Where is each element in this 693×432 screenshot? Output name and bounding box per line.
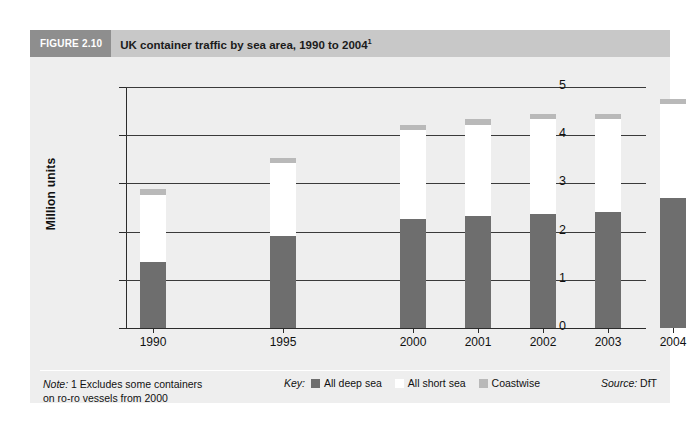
legend-item-coastwise: Coastwise [479, 377, 540, 389]
x-tick-label-2002: 2002 [513, 335, 573, 349]
plot-inner-area: 1990199520002001200220032004 [126, 87, 646, 328]
gridline-2 [126, 232, 646, 233]
bar-segment-deep-sea-1995 [270, 236, 296, 328]
legend-swatch-coastwise-icon [479, 379, 488, 388]
x-tick-mark-2001 [478, 328, 479, 333]
figure-footer: Note: 1 Excludes some containers on ro-r… [30, 374, 670, 403]
chart-legend: Key: All deep sea All short sea Coastwis… [284, 377, 553, 389]
y-tick-label-2: 2 [540, 223, 566, 237]
x-axis-line [126, 328, 646, 329]
bar-2000 [400, 125, 426, 328]
gridline-4 [126, 135, 646, 136]
x-tick-mark-1995 [283, 328, 284, 333]
source-label: Source: [601, 377, 637, 389]
bar-segment-short-sea-1990 [140, 195, 166, 262]
x-tick-mark-1990 [153, 328, 154, 333]
legend-label-deep-sea: All deep sea [324, 377, 382, 389]
gridline-1 [126, 280, 646, 281]
figure-title-footnote-marker: 1 [368, 37, 372, 46]
bar-segment-short-sea-2001 [465, 125, 491, 217]
x-tick-mark-2000 [413, 328, 414, 333]
figure-title-bar: FIGURE 2.10 UK container traffic by sea … [30, 30, 670, 57]
figure-title-text: UK container traffic by sea area, 1990 t… [120, 38, 367, 50]
x-tick-mark-2003 [608, 328, 609, 333]
y-axis-title: Million units [44, 124, 58, 264]
note-text-line2: on ro-ro vessels from 2000 [43, 391, 202, 405]
gridline-5 [126, 87, 646, 88]
bar-2002 [530, 114, 556, 328]
legend-label-short-sea: All short sea [408, 377, 466, 389]
y-tick-mark-4 [119, 135, 126, 136]
y-tick-label-0: 0 [540, 319, 566, 333]
y-tick-mark-5 [119, 87, 126, 88]
chart-plot-region: Million units 19901995200020012002200320… [30, 57, 670, 368]
bar-segment-deep-sea-1990 [140, 262, 166, 328]
y-tick-mark-0 [119, 328, 126, 329]
figure-panel: FIGURE 2.10 UK container traffic by sea … [30, 30, 670, 403]
bar-segment-short-sea-2000 [400, 130, 426, 219]
bar-segment-short-sea-2003 [595, 119, 621, 212]
bar-segment-deep-sea-2003 [595, 212, 621, 328]
bar-2003 [595, 114, 621, 328]
x-tick-label-2000: 2000 [383, 335, 443, 349]
note-label: Note: [43, 378, 68, 390]
legend-label: Key: [284, 377, 305, 389]
y-tick-mark-1 [119, 280, 126, 281]
legend-swatch-deep-sea-icon [311, 379, 320, 388]
gridline-3 [126, 183, 646, 184]
bar-2001 [465, 119, 491, 328]
bar-segment-deep-sea-2000 [400, 219, 426, 328]
y-tick-mark-2 [119, 232, 126, 233]
bar-segment-short-sea-1995 [270, 163, 296, 237]
y-tick-label-5: 5 [540, 78, 566, 92]
bar-1995 [270, 158, 296, 328]
x-tick-label-2001: 2001 [448, 335, 508, 349]
bar-segment-deep-sea-2004 [660, 198, 686, 328]
y-tick-label-1: 1 [540, 271, 566, 285]
legend-item-short-sea: All short sea [395, 377, 466, 389]
source-value: DfT [637, 377, 657, 389]
bar-1990 [140, 189, 166, 328]
figure-note: Note: 1 Excludes some containers on ro-r… [43, 377, 202, 405]
y-tick-mark-3 [119, 183, 126, 184]
bar-segment-deep-sea-2001 [465, 216, 491, 328]
figure-title: UK container traffic by sea area, 1990 t… [120, 37, 372, 51]
footer-divider [40, 370, 660, 371]
y-tick-label-4: 4 [540, 126, 566, 140]
figure-note-line1: Note: 1 Excludes some containers [43, 377, 202, 391]
x-tick-label-1995: 1995 [253, 335, 313, 349]
figure-number-badge: FIGURE 2.10 [30, 30, 111, 57]
x-tick-mark-2004 [673, 328, 674, 333]
bar-2004 [660, 99, 686, 328]
note-text-line1: 1 Excludes some containers [68, 378, 202, 390]
x-tick-label-1990: 1990 [123, 335, 183, 349]
y-tick-label-3: 3 [540, 174, 566, 188]
x-tick-label-2004: 2004 [643, 335, 693, 349]
figure-source: Source: DfT [601, 377, 657, 389]
bar-segment-short-sea-2004 [660, 104, 686, 198]
legend-swatch-short-sea-icon [395, 379, 404, 388]
x-tick-label-2003: 2003 [578, 335, 638, 349]
legend-item-deep-sea: All deep sea [311, 377, 382, 389]
legend-label-coastwise: Coastwise [492, 377, 540, 389]
